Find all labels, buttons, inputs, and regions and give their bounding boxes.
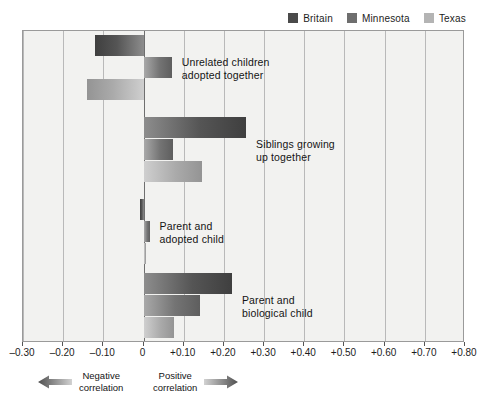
bar-britain-group-1 (144, 117, 246, 138)
positive-correlation-caption: Positive correlation (153, 370, 238, 393)
bar-texas-group-0 (87, 79, 143, 100)
chart-gridline (344, 31, 345, 341)
chart-footer-captions: Negative correlation Positive correlatio… (0, 368, 478, 400)
negative-correlation-caption: Negative correlation (38, 370, 123, 393)
category-label-3: Parent and biological child (242, 294, 313, 320)
chart-gridline (425, 31, 426, 341)
x-tick-label-9: +0.60 (371, 347, 396, 358)
left-arrow-icon (38, 375, 72, 389)
legend-label-texas: Texas (439, 13, 466, 24)
x-tick-8 (343, 342, 344, 346)
category-label-1: Siblings growing up together (256, 138, 335, 164)
x-tick-1 (62, 342, 63, 346)
chart-plot-inner: Unrelated children adopted togetherSibli… (23, 31, 463, 341)
chart-gridline (385, 31, 386, 341)
bar-britain-group-3 (144, 273, 232, 294)
x-tick-0 (22, 342, 23, 346)
bar-britain-group-0 (95, 35, 143, 56)
x-tick-4 (183, 342, 184, 346)
chart-gridline (23, 31, 24, 341)
category-label-0: Unrelated children adopted together (182, 56, 270, 82)
legend-swatch-minnesota (347, 13, 357, 23)
x-tick-11 (464, 342, 465, 346)
chart-gridline (103, 31, 104, 341)
x-tick-10 (424, 342, 425, 346)
x-tick-label-4: +0.10 (170, 347, 195, 358)
x-tick-label-3: 0 (140, 347, 146, 358)
category-label-2: Parent and adopted child (160, 220, 224, 246)
bar-texas-group-2 (144, 243, 146, 264)
bar-britain-group-2 (140, 199, 144, 220)
positive-correlation-label: Positive correlation (153, 370, 197, 393)
negative-correlation-label: Negative correlation (79, 370, 123, 393)
right-arrow-icon (204, 375, 238, 389)
chart-gridline (63, 31, 64, 341)
x-tick-9 (384, 342, 385, 346)
legend-entry-texas: Texas (424, 13, 466, 24)
legend-swatch-britain (288, 13, 298, 23)
chart-plot-area: Unrelated children adopted togetherSibli… (22, 30, 464, 342)
x-tick-6 (263, 342, 264, 346)
chart-x-axis: –0.30–0.20–0.100+0.10+0.20+0.30+0.40+0.5… (22, 342, 464, 364)
bar-texas-group-1 (144, 161, 202, 182)
x-tick-label-0: –0.30 (9, 347, 34, 358)
x-tick-label-8: +0.50 (331, 347, 356, 358)
x-tick-label-1: –0.20 (50, 347, 75, 358)
x-tick-2 (102, 342, 103, 346)
legend-label-minnesota: Minnesota (362, 13, 410, 24)
legend-label-britain: Britain (303, 13, 333, 24)
legend-entry-minnesota: Minnesota (347, 13, 410, 24)
x-tick-label-2: –0.10 (90, 347, 115, 358)
bar-minnesota-group-1 (144, 139, 173, 160)
x-tick-label-10: +0.70 (411, 347, 436, 358)
bar-minnesota-group-3 (144, 295, 200, 316)
x-tick-7 (303, 342, 304, 346)
bar-texas-group-3 (144, 317, 174, 338)
x-tick-5 (223, 342, 224, 346)
x-tick-label-6: +0.30 (250, 347, 275, 358)
bar-minnesota-group-2 (144, 221, 150, 242)
bar-minnesota-group-0 (144, 57, 172, 78)
x-tick-label-7: +0.40 (291, 347, 316, 358)
x-tick-3 (143, 342, 144, 346)
legend-swatch-texas (424, 13, 434, 23)
legend-entry-britain: Britain (288, 13, 333, 24)
chart-legend: Britain Minnesota Texas (0, 9, 478, 27)
x-tick-label-5: +0.20 (210, 347, 235, 358)
x-tick-label-11: +0.80 (451, 347, 476, 358)
